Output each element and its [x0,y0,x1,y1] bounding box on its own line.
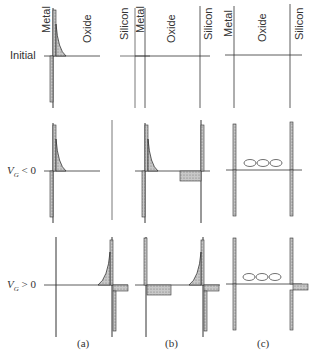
label-metal-a: Metal [40,6,52,33]
column-a [44,8,150,337]
row-label-vg-positive: VG > 0 [7,278,36,293]
column-c [225,4,308,330]
label-oxide-a: Oxide [81,14,93,43]
row-label-initial: Initial [10,49,36,61]
mos-charge-diagram [0,0,314,352]
label-oxide-b: Oxide [165,14,177,43]
label-oxide-c: Oxide [256,13,268,42]
row-label-vg-negative: VG < 0 [7,164,36,179]
label-metal-b: Metal [134,6,146,33]
caption-b: (b) [165,337,178,349]
panel-b-vg-positive [135,237,220,337]
label-metal-c: Metal [222,10,234,37]
metal-charge-negative [50,56,53,102]
label-silicon-b: Silicon [202,8,214,40]
vg-relation: < 0 [19,164,36,176]
panel-c-vg-positive [226,238,308,330]
vg-symbol: V [7,164,14,176]
label-silicon-a: Silicon [118,8,130,40]
vg-relation: > 0 [19,278,36,290]
panel-b-vg-negative [135,120,210,223]
metal-charge-positive [53,10,56,56]
column-b [135,6,220,337]
caption-a: (a) [77,337,89,349]
caption-c: (c) [257,337,269,349]
vg-symbol: V [7,278,14,290]
dipoles-row3 [243,274,281,281]
panel-a-vg-positive [44,237,128,337]
label-silicon-c: Silicon [293,8,305,40]
charge-decay-curve [56,24,66,56]
panel-c-vg-negative [226,122,302,216]
panel-a-vg-negative [44,120,112,223]
dipoles-row2 [244,160,282,167]
